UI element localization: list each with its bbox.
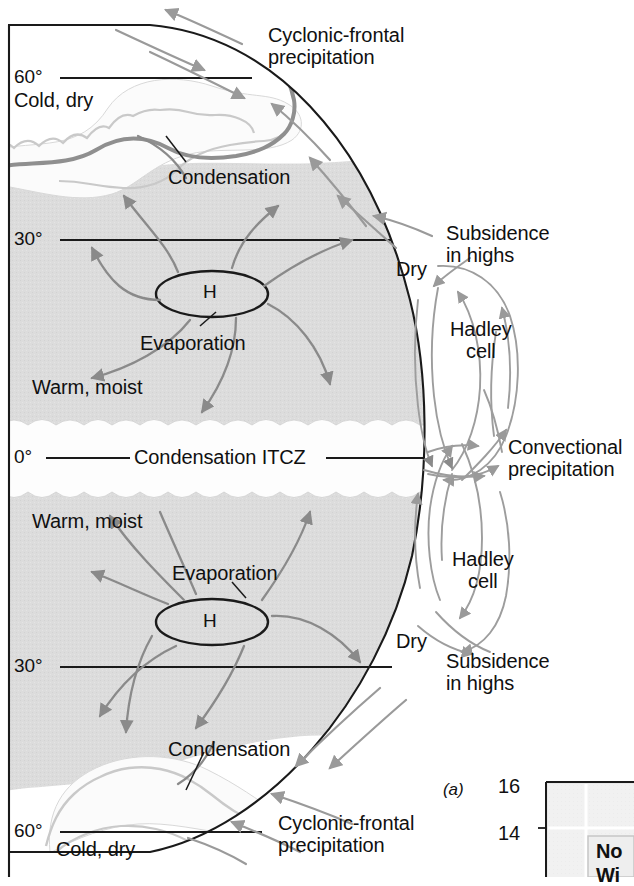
label-evaporation-south: Evaporation bbox=[172, 562, 278, 584]
label-condensation-itcz: Condensation ITCZ bbox=[134, 446, 306, 468]
label-condensation-north: Condensation bbox=[168, 166, 290, 188]
lat-label-30s: 30° bbox=[14, 655, 42, 676]
lat-label-60s: 60° bbox=[14, 820, 42, 841]
label-subsidence-south: Subsidence in highs bbox=[446, 650, 550, 695]
label-cold-dry-south: Cold, dry bbox=[56, 838, 135, 860]
panel-part-label: (a) bbox=[443, 780, 463, 799]
label-warm-moist-south: Warm, moist bbox=[32, 510, 142, 532]
label-dry-north: Dry bbox=[396, 258, 427, 280]
label-hadley-north: Hadley cell bbox=[450, 318, 512, 363]
panel-legend-line-2: Wi bbox=[596, 864, 620, 886]
label-cyclonic-south: Cyclonic-frontal precipitation bbox=[278, 812, 414, 857]
label-warm-moist-north: Warm, moist bbox=[32, 376, 142, 398]
inset-chart-panel bbox=[538, 782, 634, 877]
hadley-cell-north bbox=[415, 258, 518, 480]
lat-label-30n: 30° bbox=[14, 228, 42, 249]
lat-label-0: 0° bbox=[14, 446, 32, 467]
panel-legend-line-1: No bbox=[596, 840, 622, 862]
label-dry-south: Dry bbox=[396, 630, 427, 652]
lat-label-60n: 60° bbox=[14, 66, 42, 87]
label-condensation-south: Condensation bbox=[168, 738, 290, 760]
panel-ytick-14: 14 bbox=[498, 822, 520, 844]
label-convectional: Convectional precipitation bbox=[508, 436, 622, 481]
label-cold-dry-north: Cold, dry bbox=[14, 89, 93, 111]
label-subsidence-north: Subsidence in highs bbox=[446, 222, 550, 267]
panel-ytick-16: 16 bbox=[498, 775, 520, 797]
label-high-north: H bbox=[203, 281, 217, 302]
label-high-south: H bbox=[203, 610, 217, 631]
label-cyclonic-north: Cyclonic-frontal precipitation bbox=[268, 24, 404, 69]
label-hadley-south: Hadley cell bbox=[452, 548, 514, 593]
label-evaporation-north: Evaporation bbox=[140, 332, 246, 354]
